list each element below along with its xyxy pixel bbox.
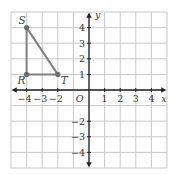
vertex-label-r: R: [17, 74, 26, 86]
x-axis-arrow-right-icon: [161, 87, 166, 93]
x-tick-label: −2: [49, 93, 63, 104]
axes: [12, 13, 166, 167]
vertex-point-s: [24, 25, 29, 30]
vertex-point-t: [55, 72, 60, 77]
x-tick-label: −4: [18, 93, 32, 104]
x-tick-label: 3: [133, 93, 139, 104]
y-tick-label: −2: [71, 116, 85, 127]
y-tick-label: 3: [79, 38, 85, 49]
vertex-label-t: T: [61, 74, 69, 86]
y-tick-label: 4: [79, 22, 85, 33]
x-axis-label: x: [161, 93, 167, 104]
origin-label: O: [76, 93, 84, 104]
y-tick-label: −4: [71, 147, 85, 158]
x-axis-arrow-left-icon: [12, 87, 17, 93]
y-tick-label: 1: [79, 69, 85, 80]
triangle-srt: SRT: [17, 14, 69, 87]
x-tick-label: 1: [102, 93, 108, 104]
coordinate-plane: −4−3−212344321−2−3−4Oxy SRT: [0, 0, 178, 175]
y-axis-arrow-down-icon: [86, 162, 92, 167]
y-axis-label: y: [94, 9, 101, 20]
x-tick-label: 2: [117, 93, 123, 104]
coordinate-grid: −4−3−212344321−2−3−4Oxy SRT: [0, 0, 178, 175]
y-tick-label: −3: [71, 131, 85, 142]
y-tick-label: 2: [79, 53, 85, 64]
vertex-label-s: S: [19, 14, 26, 26]
x-tick-label: 4: [148, 93, 154, 104]
y-axis-arrow-up-icon: [86, 13, 92, 18]
tick-labels: −4−3−212344321−2−3−4Oxy: [18, 9, 168, 158]
x-tick-label: −3: [33, 93, 47, 104]
